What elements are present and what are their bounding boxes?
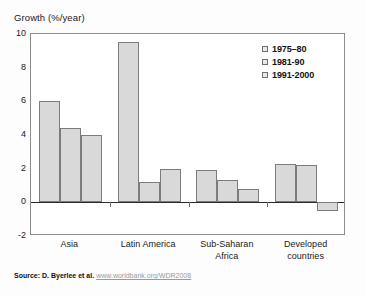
bar [217,180,238,202]
y-tick-label: 8 [21,62,26,72]
legend-item[interactable]: 1981-90 [262,56,314,67]
bar [296,165,317,202]
bar [317,202,338,210]
x-category-label: Latin America [109,239,188,251]
y-tick-label: 6 [21,95,26,105]
bar [81,135,102,202]
x-category-label-line: Sub-Saharan [188,239,267,251]
figure-bar-chart-growth: Growth (%/year) 1086420-2 1975–801981-90… [0,0,365,296]
x-tick-mark [267,202,268,207]
source-line: Source: D. Byerlee et al.www.worldbank.o… [14,272,191,279]
x-category-label-line: Latin America [109,239,188,251]
x-category-label: Developedcountries [266,239,345,262]
bar [39,101,60,202]
bar [139,182,160,202]
zero-baseline [31,202,344,203]
bar [196,170,217,202]
y-tick-label: 4 [21,129,26,139]
bar [60,128,81,202]
x-tick-mark [110,202,111,207]
legend-swatch-1991-2000 [262,72,268,78]
y-axis-tick-labels: 1086420-2 [6,33,26,235]
x-category-label: Sub-SaharanAfrica [188,239,267,262]
bar [275,164,296,203]
x-category-label: Asia [30,239,109,251]
legend-item[interactable]: 1975–80 [262,43,314,54]
legend-swatch-1981-90 [262,59,268,65]
y-tick-label: 2 [21,163,26,173]
legend-item-label: 1981-90 [272,57,304,67]
y-tick-label: 10 [16,28,26,38]
x-tick-mark [189,202,190,207]
source-prefix: Source: D. Byerlee et al. [14,272,94,279]
legend-swatch-1975-80 [262,46,268,52]
x-category-label-line: Asia [30,239,109,251]
x-category-label-line: Africa [188,251,267,263]
legend-item-label: 1991-2000 [272,70,314,80]
x-category-label-line: Developed [266,239,345,251]
y-tick-label: -2 [18,230,26,240]
source-url-link[interactable]: www.worldbank.org/WDR2008 [96,272,191,279]
bar [160,169,181,203]
bar [238,189,259,202]
y-tick-label: 0 [21,196,26,206]
legend-item-label: 1975–80 [272,44,306,54]
chart-title: Growth (%/year) [14,12,85,23]
legend-item[interactable]: 1991-2000 [262,69,314,80]
x-axis-category-labels: AsiaLatin AmericaSub-SaharanAfricaDevelo… [30,239,345,269]
x-category-label-line: countries [266,251,345,263]
legend: 1975–801981-901991-2000 [262,43,314,82]
bar [118,42,139,202]
